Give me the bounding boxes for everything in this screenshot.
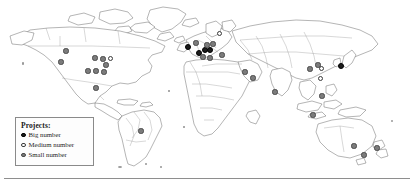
scan-speck [168, 90, 170, 92]
legend-marker-big-icon [21, 133, 26, 138]
world-map-figure: Projects: Big number Medium number Small… [0, 0, 414, 187]
legend-marker-medium-icon [21, 143, 26, 148]
footer-divider [4, 178, 410, 179]
map-legend: Projects: Big number Medium number Small… [15, 117, 94, 166]
scan-speck [22, 62, 24, 65]
scan-speck [145, 163, 147, 165]
legend-label-big: Big number [29, 130, 61, 140]
legend-marker-small-icon [21, 153, 26, 158]
legend-label-medium: Medium number [29, 140, 75, 150]
legend-item-medium: Medium number [21, 140, 89, 150]
legend-item-small: Small number [21, 150, 89, 160]
scan-speck [160, 166, 162, 168]
legend-label-small: Small number [29, 150, 67, 160]
scan-speck [183, 126, 185, 128]
scan-speck [118, 166, 122, 168]
legend-item-big: Big number [21, 130, 89, 140]
scan-speck [391, 120, 393, 122]
legend-title: Projects: [21, 121, 89, 130]
